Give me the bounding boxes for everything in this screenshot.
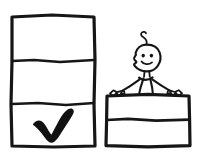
ledge-box: [106, 94, 190, 146]
head-outline: [134, 45, 160, 72]
left-eye-icon: [142, 54, 145, 58]
hair-curl-icon: [141, 32, 147, 45]
ledge-row-2: [108, 121, 188, 145]
right-eye-icon: [150, 54, 153, 58]
left-arm: [122, 80, 139, 91]
smile-icon: [142, 61, 152, 64]
ledge-row-divider-1: [107, 119, 190, 121]
checklist-row-1: [13, 18, 93, 60]
checklist-row-divider-1: [12, 60, 94, 62]
drawing-surface: [0, 0, 205, 162]
illustration-canvas: [0, 0, 205, 162]
checklist-row-divider-2: [12, 103, 94, 105]
ledge-row-1: [108, 97, 188, 119]
right-arm: [152, 79, 170, 90]
checklist-row-2: [13, 62, 93, 103]
ledge-scene: [106, 32, 190, 147]
checklist-box: [11, 15, 95, 147]
